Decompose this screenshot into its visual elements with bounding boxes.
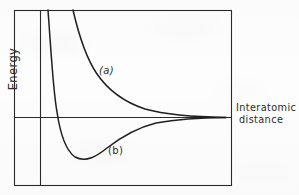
plot-canvas xyxy=(0,0,299,195)
curve-b-path xyxy=(48,10,226,159)
curve-a-label: (a) xyxy=(99,65,114,76)
curve-b-label: (b) xyxy=(108,145,123,156)
curve-a-path xyxy=(73,10,226,117)
potential-energy-figure: Energy Interatomicdistance (a) (b) xyxy=(0,0,299,195)
x-axis-label-line2: distance xyxy=(236,114,296,126)
y-axis-label: Energy xyxy=(6,36,20,102)
x-axis-label-line1: Interatomic xyxy=(236,102,296,113)
x-axis-label: Interatomicdistance xyxy=(236,102,296,125)
